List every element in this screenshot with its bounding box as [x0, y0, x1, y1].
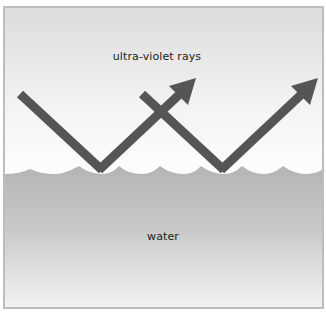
ultraviolet-rays-label: ultra-violet rays	[113, 50, 201, 63]
sky-region	[5, 8, 322, 178]
water-label: water	[147, 230, 179, 243]
